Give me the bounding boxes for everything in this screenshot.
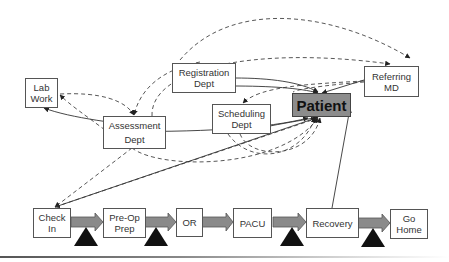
dashed-link-assessment-checkin [55, 148, 132, 207]
node-assessment-dept[interactable]: Assessment Dept [103, 116, 166, 149]
step-pre-op-prep[interactable]: Pre-Op Prep [103, 208, 146, 238]
flow-arrow-pacu-recovery [273, 213, 306, 231]
wait-triangle-2 [144, 227, 168, 246]
step-recovery[interactable]: Recovery [306, 208, 359, 238]
bottom-divider [0, 256, 449, 258]
flow-arrow-preop-or [145, 213, 176, 231]
wait-triangle-4 [361, 228, 385, 247]
wait-triangle-3 [280, 227, 304, 246]
node-lab-work[interactable]: Lab Work [25, 78, 58, 108]
solid-link-recovery-patient [332, 108, 350, 208]
solid-link-scheduling-patient [270, 117, 318, 126]
flow-arrow-checkin-preop [71, 213, 103, 231]
wait-triangle-1 [74, 227, 98, 246]
node-referring-md[interactable]: Referring MD [364, 66, 419, 97]
step-pacu[interactable]: PACU [233, 208, 272, 238]
dashed-link-checkin-lab [60, 95, 105, 130]
node-scheduling-dept[interactable]: Scheduling Dept [212, 104, 271, 134]
step-or[interactable]: OR [176, 208, 203, 237]
solid-link-registration-patient-2 [232, 86, 318, 93]
node-registration-dept[interactable]: Registration Dept [172, 63, 236, 93]
flow-arrow-recovery-gohome [358, 214, 390, 232]
step-go-home[interactable]: Go Home [390, 209, 428, 239]
dashed-link-assessment-referring-top [180, 18, 410, 60]
flow-arrow-or-pacu [202, 213, 233, 231]
step-check-in[interactable]: Check In [33, 208, 71, 238]
node-patient[interactable]: Patient [292, 93, 351, 117]
